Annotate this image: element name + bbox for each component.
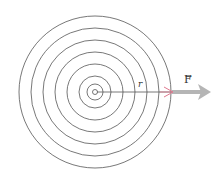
field-label: → F bbox=[184, 73, 192, 86]
radius-label: r bbox=[138, 79, 142, 89]
vector-arrow-mark: → bbox=[185, 72, 192, 81]
concentric-circles-diagram bbox=[0, 0, 216, 177]
center-point bbox=[93, 90, 98, 95]
field-arrow bbox=[172, 84, 211, 100]
